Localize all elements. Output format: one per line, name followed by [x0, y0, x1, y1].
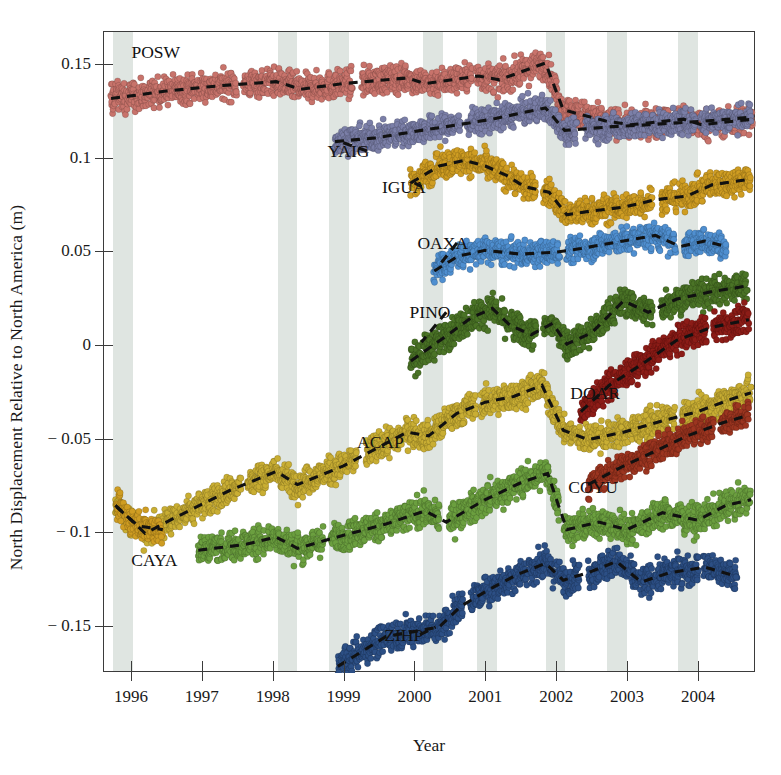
data-point	[421, 487, 427, 493]
data-point	[713, 337, 719, 343]
data-point	[723, 249, 729, 255]
data-point	[723, 241, 729, 247]
data-point	[648, 463, 654, 469]
data-point	[366, 63, 372, 69]
data-point	[255, 556, 261, 562]
y-tick-label: − 0.1	[56, 522, 91, 542]
data-point	[361, 62, 367, 68]
data-point	[403, 611, 409, 617]
data-point	[649, 565, 655, 571]
data-point	[495, 94, 501, 100]
data-point	[732, 557, 738, 563]
data-point	[663, 286, 669, 292]
data-point	[499, 295, 505, 301]
data-point	[537, 263, 543, 269]
data-point	[429, 113, 435, 119]
data-point	[508, 233, 514, 239]
data-point	[512, 588, 518, 594]
data-point	[464, 331, 470, 337]
y-tick-inner	[104, 439, 113, 440]
data-point	[495, 412, 501, 418]
data-point	[577, 232, 583, 238]
data-point	[307, 552, 313, 558]
data-point	[487, 507, 493, 513]
x-tick-label: 2002	[539, 687, 573, 707]
data-point	[300, 494, 306, 500]
data-point	[573, 120, 579, 126]
data-point	[170, 71, 176, 77]
data-point	[672, 246, 678, 252]
x-tick-inner	[627, 661, 628, 671]
data-point	[348, 68, 354, 74]
data-point	[138, 75, 144, 81]
data-point	[431, 279, 437, 285]
data-point	[553, 78, 559, 84]
data-point	[711, 308, 717, 314]
data-point	[185, 493, 191, 499]
data-point	[457, 128, 463, 134]
data-point	[540, 54, 546, 60]
data-point	[635, 382, 641, 388]
data-point	[546, 176, 552, 182]
data-point	[541, 370, 547, 376]
data-point	[353, 463, 359, 469]
data-point	[631, 250, 637, 256]
data-point	[679, 351, 685, 357]
data-point	[595, 99, 601, 105]
data-point	[685, 552, 691, 558]
data-point	[136, 508, 142, 514]
data-point	[628, 552, 634, 558]
data-point	[679, 132, 685, 138]
station-label-YAIG: YAIG	[328, 141, 370, 162]
data-point	[523, 407, 529, 413]
x-tick-inner	[273, 661, 274, 671]
data-point	[648, 187, 654, 193]
data-layer	[104, 32, 754, 671]
data-point	[468, 173, 474, 179]
data-point	[674, 548, 680, 554]
x-tick-label: 2004	[681, 687, 715, 707]
data-point	[333, 482, 339, 488]
x-tick-inner	[485, 661, 486, 671]
data-point	[402, 117, 408, 123]
data-point	[725, 103, 731, 109]
data-point	[705, 138, 711, 144]
data-point	[520, 492, 526, 498]
data-point	[158, 534, 164, 540]
x-tick	[485, 671, 486, 681]
data-point	[655, 554, 661, 560]
series-svg	[104, 32, 756, 673]
data-point	[510, 124, 516, 130]
data-point	[349, 668, 355, 673]
data-point	[460, 596, 466, 602]
data-point	[546, 52, 552, 58]
data-point	[447, 630, 453, 636]
data-point	[746, 326, 752, 332]
data-point	[368, 655, 374, 661]
data-point	[430, 613, 436, 619]
x-tick	[202, 671, 203, 681]
data-point	[155, 74, 161, 80]
data-point	[744, 287, 750, 293]
data-point	[483, 148, 489, 154]
data-point	[550, 585, 556, 591]
data-point	[703, 339, 709, 345]
data-point	[356, 123, 362, 129]
data-point	[682, 209, 688, 215]
series-ZIHP	[335, 542, 740, 673]
x-tick-inner	[414, 661, 415, 671]
data-point	[662, 497, 668, 503]
data-point	[220, 64, 226, 70]
data-point	[700, 414, 706, 420]
data-point	[165, 102, 171, 108]
data-point	[233, 80, 239, 86]
data-point	[500, 124, 506, 130]
data-point	[694, 577, 700, 583]
data-point	[294, 68, 300, 74]
data-point	[589, 195, 595, 201]
data-point	[486, 603, 492, 609]
data-point	[291, 563, 297, 569]
data-point	[507, 495, 513, 501]
data-point	[738, 100, 744, 106]
data-point	[177, 524, 183, 530]
